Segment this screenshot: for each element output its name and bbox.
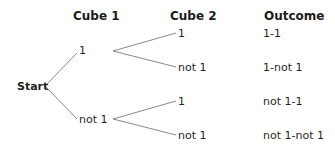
outcome-not1-1: not 1-1 xyxy=(263,95,302,108)
node-cube2-1-b: 1 xyxy=(178,95,185,108)
branch-start-to-1 xyxy=(45,53,77,86)
branch-start-to-not1 xyxy=(45,86,77,119)
node-cube1-not1: not 1 xyxy=(79,113,108,126)
node-cube2-1-a: 1 xyxy=(178,27,185,40)
node-start: Start xyxy=(17,80,48,93)
branch-not1-to-not1 xyxy=(113,119,176,135)
node-cube2-not1-a: not 1 xyxy=(178,61,207,74)
node-cube2-not1-b: not 1 xyxy=(178,129,207,142)
outcome-not1-not1: not 1-not 1 xyxy=(263,129,324,142)
node-cube1-1: 1 xyxy=(79,44,86,57)
branch-not1-to-1 xyxy=(113,101,176,119)
outcome-1-1: 1-1 xyxy=(263,27,281,40)
outcome-1-not1: 1-not 1 xyxy=(263,61,302,74)
branch-1-to-1 xyxy=(113,33,176,51)
tree-diagram: Cube 1 Cube 2 Outcome Start 1 not 1 1 no… xyxy=(0,0,335,149)
header-cube1: Cube 1 xyxy=(73,9,120,23)
header-outcome: Outcome xyxy=(264,9,324,23)
branch-1-to-not1 xyxy=(113,51,176,67)
header-cube2: Cube 2 xyxy=(170,9,217,23)
